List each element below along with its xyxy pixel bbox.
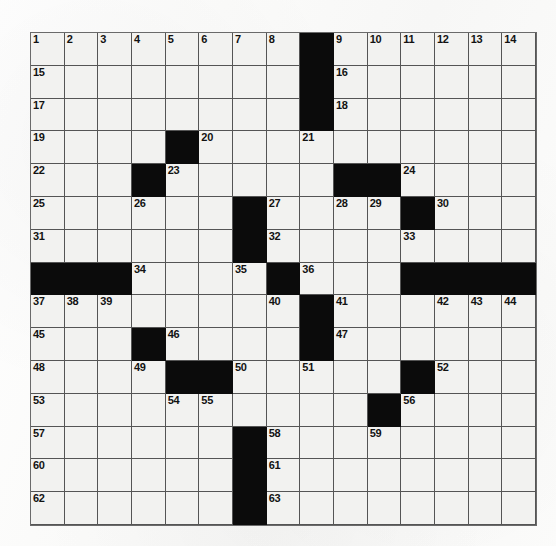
crossword-cell[interactable]: [368, 263, 402, 296]
crossword-cell[interactable]: [233, 328, 267, 361]
crossword-cell[interactable]: [300, 427, 334, 460]
crossword-cell[interactable]: 12: [435, 33, 469, 66]
crossword-cell[interactable]: 46: [166, 328, 200, 361]
crossword-cell[interactable]: [502, 197, 536, 230]
crossword-cell[interactable]: [502, 328, 536, 361]
crossword-cell[interactable]: [267, 99, 301, 132]
crossword-cell[interactable]: [199, 230, 233, 263]
crossword-cell[interactable]: [166, 295, 200, 328]
crossword-cell[interactable]: [469, 164, 503, 197]
crossword-cell[interactable]: [233, 99, 267, 132]
crossword-cell[interactable]: 32: [267, 230, 301, 263]
crossword-cell[interactable]: [401, 427, 435, 460]
crossword-cell[interactable]: [98, 459, 132, 492]
crossword-cell[interactable]: [334, 394, 368, 427]
crossword-cell[interactable]: [502, 394, 536, 427]
crossword-cell[interactable]: [300, 230, 334, 263]
crossword-cell[interactable]: 55: [199, 394, 233, 427]
crossword-cell[interactable]: [65, 197, 99, 230]
crossword-cell[interactable]: [233, 66, 267, 99]
crossword-cell[interactable]: [401, 492, 435, 525]
crossword-cell[interactable]: 42: [435, 295, 469, 328]
crossword-cell[interactable]: [300, 394, 334, 427]
crossword-cell[interactable]: 23: [166, 164, 200, 197]
crossword-cell[interactable]: 36: [300, 263, 334, 296]
crossword-cell[interactable]: 1: [31, 33, 65, 66]
crossword-cell[interactable]: [166, 263, 200, 296]
crossword-cell[interactable]: 38: [65, 295, 99, 328]
crossword-cell[interactable]: 47: [334, 328, 368, 361]
crossword-cell[interactable]: 24: [401, 164, 435, 197]
crossword-cell[interactable]: 17: [31, 99, 65, 132]
crossword-cell[interactable]: [368, 459, 402, 492]
crossword-cell[interactable]: 21: [300, 131, 334, 164]
crossword-cell[interactable]: [267, 394, 301, 427]
crossword-cell[interactable]: [98, 164, 132, 197]
crossword-cell[interactable]: [368, 99, 402, 132]
crossword-cell[interactable]: [435, 164, 469, 197]
crossword-cell[interactable]: [132, 99, 166, 132]
crossword-cell[interactable]: 27: [267, 197, 301, 230]
crossword-cell[interactable]: [368, 492, 402, 525]
crossword-cell[interactable]: [469, 328, 503, 361]
crossword-cell[interactable]: 22: [31, 164, 65, 197]
crossword-cell[interactable]: [65, 427, 99, 460]
crossword-cell[interactable]: [469, 131, 503, 164]
crossword-cell[interactable]: 63: [267, 492, 301, 525]
crossword-cell[interactable]: 40: [267, 295, 301, 328]
crossword-cell[interactable]: 53: [31, 394, 65, 427]
crossword-cell[interactable]: [166, 197, 200, 230]
crossword-cell[interactable]: 62: [31, 492, 65, 525]
crossword-cell[interactable]: [98, 66, 132, 99]
crossword-cell[interactable]: [65, 66, 99, 99]
crossword-cell[interactable]: [132, 427, 166, 460]
crossword-cell[interactable]: [98, 230, 132, 263]
crossword-cell[interactable]: [502, 66, 536, 99]
crossword-cell[interactable]: [65, 99, 99, 132]
crossword-cell[interactable]: [401, 328, 435, 361]
crossword-cell[interactable]: 33: [401, 230, 435, 263]
crossword-cell[interactable]: 5: [166, 33, 200, 66]
crossword-cell[interactable]: 16: [334, 66, 368, 99]
crossword-cell[interactable]: 45: [31, 328, 65, 361]
crossword-cell[interactable]: [300, 459, 334, 492]
crossword-cell[interactable]: [199, 328, 233, 361]
crossword-cell[interactable]: [435, 427, 469, 460]
crossword-cell[interactable]: [166, 230, 200, 263]
crossword-cell[interactable]: [401, 131, 435, 164]
crossword-cell[interactable]: [132, 230, 166, 263]
crossword-cell[interactable]: [132, 492, 166, 525]
crossword-cell[interactable]: [469, 197, 503, 230]
crossword-cell[interactable]: [435, 459, 469, 492]
crossword-cell[interactable]: 10: [368, 33, 402, 66]
crossword-cell[interactable]: 50: [233, 361, 267, 394]
crossword-cell[interactable]: [65, 459, 99, 492]
crossword-cell[interactable]: [166, 66, 200, 99]
crossword-cell[interactable]: 25: [31, 197, 65, 230]
crossword-cell[interactable]: 41: [334, 295, 368, 328]
crossword-cell[interactable]: [435, 131, 469, 164]
crossword-cell[interactable]: [502, 427, 536, 460]
crossword-cell[interactable]: [469, 427, 503, 460]
crossword-cell[interactable]: 39: [98, 295, 132, 328]
crossword-cell[interactable]: 43: [469, 295, 503, 328]
crossword-cell[interactable]: 19: [31, 131, 65, 164]
crossword-cell[interactable]: 61: [267, 459, 301, 492]
crossword-cell[interactable]: [132, 295, 166, 328]
crossword-cell[interactable]: 31: [31, 230, 65, 263]
crossword-cell[interactable]: 37: [31, 295, 65, 328]
crossword-cell[interactable]: [199, 197, 233, 230]
crossword-cell[interactable]: 35: [233, 263, 267, 296]
crossword-cell[interactable]: 14: [502, 33, 536, 66]
crossword-cell[interactable]: [233, 164, 267, 197]
crossword-cell[interactable]: [401, 99, 435, 132]
crossword-cell[interactable]: [435, 230, 469, 263]
crossword-cell[interactable]: 59: [368, 427, 402, 460]
crossword-cell[interactable]: 4: [132, 33, 166, 66]
crossword-cell[interactable]: [502, 361, 536, 394]
crossword-cell[interactable]: [502, 492, 536, 525]
crossword-cell[interactable]: [65, 492, 99, 525]
crossword-cell[interactable]: [166, 492, 200, 525]
crossword-cell[interactable]: [267, 66, 301, 99]
crossword-cell[interactable]: [435, 328, 469, 361]
